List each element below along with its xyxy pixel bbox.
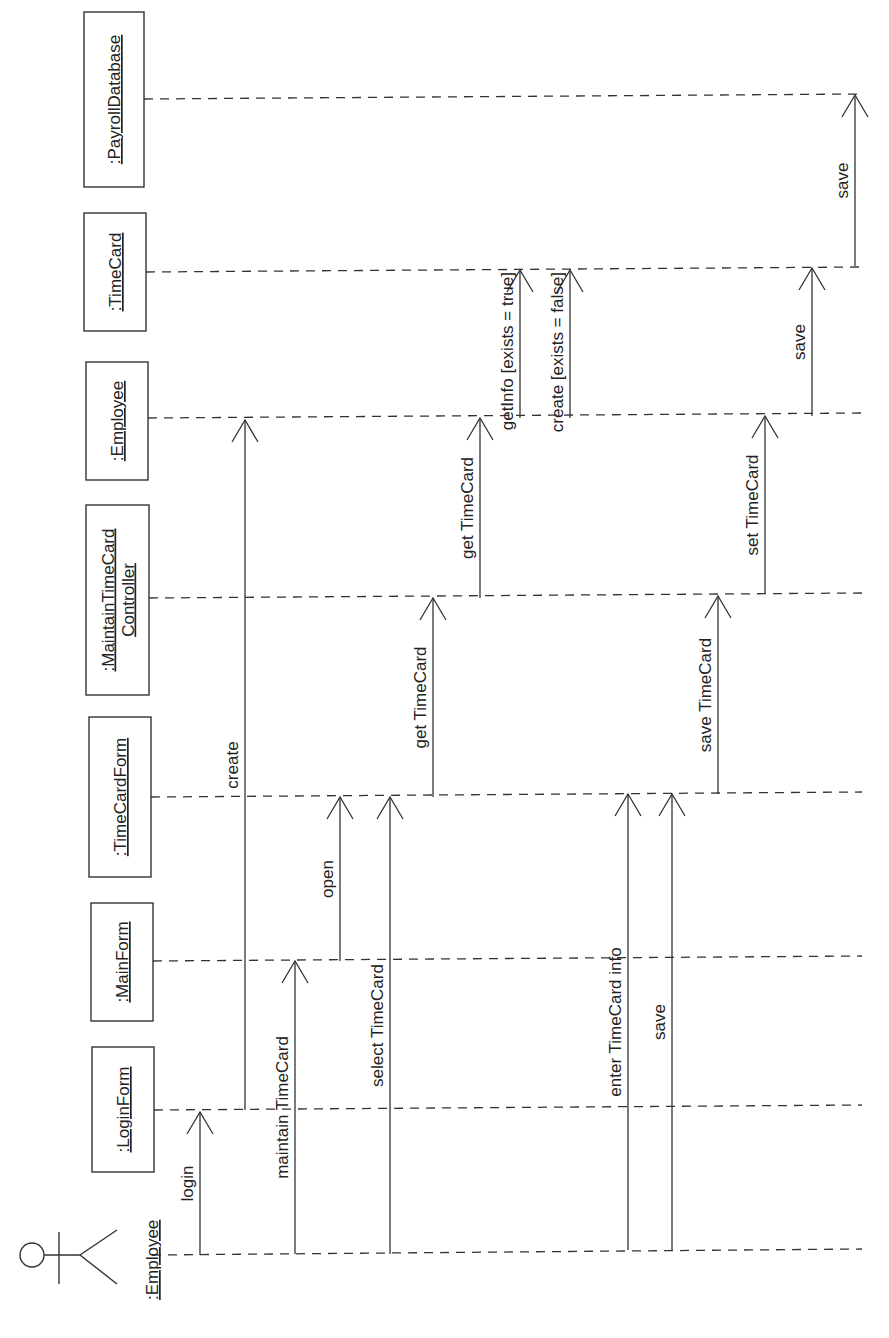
stick-figure-icon — [20, 1230, 117, 1284]
object-label: :PayrollDatabase — [105, 35, 124, 164]
message-arrow: get TimeCard — [458, 418, 493, 598]
lifeline-actor-employee — [152, 1249, 862, 1255]
lifeline-tcform — [151, 792, 862, 797]
message-arrow: create [exists = false] — [548, 270, 583, 432]
message-label: login — [178, 1166, 197, 1202]
message-label: get TimeCard — [411, 646, 430, 748]
object-label: :TimeCard — [106, 233, 125, 312]
message-label: maintain TimeCard — [273, 1036, 292, 1179]
lifelines — [144, 94, 862, 1255]
message-label: save TimeCard — [696, 638, 715, 752]
message-label: open — [318, 860, 337, 898]
object-tcform: :TimeCardForm — [89, 717, 151, 877]
object-boxes: :PayrollDatabase:TimeCard:Employee:Maint… — [84, 12, 154, 1172]
message-label: select TimeCard — [368, 964, 387, 1087]
object-employee: :Employee — [86, 362, 148, 480]
object-loginform: :LoginForm — [92, 1047, 154, 1172]
message-label: enter TimeCard info — [606, 947, 625, 1096]
message-arrow: getInfo [exists = true] — [498, 270, 533, 430]
messages: logincreatemaintain TimeCardopenselect T… — [178, 95, 868, 1255]
message-arrow: save — [650, 794, 685, 1250]
object-mainform: :MainForm — [91, 903, 153, 1021]
message-arrow: maintain TimeCard — [273, 961, 308, 1254]
sequence-diagram: :PayrollDatabase:TimeCard:Employee:Maint… — [0, 0, 889, 1338]
message-label: set TimeCard — [743, 454, 762, 555]
message-arrow: enter TimeCard info — [606, 794, 641, 1250]
message-label: save — [650, 1004, 669, 1040]
object-label: :TimeCardForm — [111, 738, 130, 856]
object-label-line2: Controller — [119, 563, 138, 637]
message-arrow: save — [833, 95, 868, 266]
actor-employee: :Employee — [20, 1220, 162, 1300]
message-arrow: get TimeCard — [411, 598, 446, 797]
lifeline-timecard — [146, 267, 862, 272]
lifeline-payroll — [144, 94, 862, 99]
message-label: create [exists = false] — [548, 272, 567, 432]
object-controller: :MaintainTimeCardController — [86, 505, 149, 695]
message-label: getInfo [exists = true] — [498, 272, 517, 430]
message-label: save — [833, 163, 852, 199]
message-arrow: login — [178, 1112, 213, 1255]
object-label: :Employee — [108, 381, 127, 461]
message-arrow: save — [790, 268, 825, 416]
object-label: :MaintainTimeCard — [99, 529, 118, 672]
message-arrow: create — [223, 420, 258, 1110]
object-payroll: :PayrollDatabase — [84, 12, 144, 187]
object-label: :MainForm — [113, 921, 132, 1002]
message-arrow: open — [318, 797, 353, 961]
lifeline-mainform — [153, 956, 862, 961]
object-box — [86, 505, 149, 695]
object-timecard: :TimeCard — [84, 213, 146, 331]
object-label: :LoginForm — [114, 1067, 133, 1153]
lifeline-controller — [149, 593, 862, 598]
message-arrow: save TimeCard — [696, 596, 731, 794]
message-label: save — [790, 324, 809, 360]
message-label: get TimeCard — [458, 457, 477, 559]
message-arrow: set TimeCard — [743, 416, 778, 594]
message-label: create — [223, 741, 242, 788]
lifeline-loginform — [154, 1105, 862, 1110]
message-arrow: select TimeCard — [368, 797, 403, 1254]
actor-label: :Employee — [143, 1220, 162, 1300]
